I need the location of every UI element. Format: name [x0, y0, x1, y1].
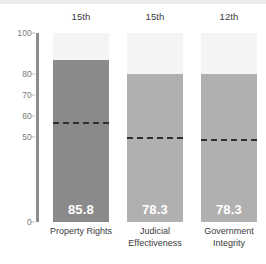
- reference-line-judicial-effectiveness: [127, 137, 183, 139]
- reference-line-government-integrity: [201, 139, 257, 141]
- bar-column-property-rights[interactable]: 85.8: [44, 33, 118, 222]
- category-label-judicial-effectiveness: Judicial Effectiveness: [118, 226, 192, 249]
- bar-judicial-effectiveness[interactable]: [127, 74, 183, 222]
- bar-value-property-rights: 85.8: [53, 202, 109, 217]
- y-axis-tick-mark-50: [30, 137, 35, 138]
- y-axis-tick-label-50: 50: [0, 132, 32, 142]
- y-axis-tick-mark-60: [30, 116, 35, 117]
- bar-group: 85.8 78.3 78.3: [44, 33, 266, 222]
- y-axis-tick-label-100: 100: [0, 28, 32, 38]
- y-axis-tick-mark-100: [30, 33, 35, 34]
- bar-value-government-integrity: 78.3: [201, 202, 257, 217]
- y-axis-tick-mark-80: [30, 74, 35, 75]
- bar-government-integrity[interactable]: [201, 74, 257, 222]
- y-axis-tick-label-70: 70: [0, 90, 32, 100]
- bar-value-judicial-effectiveness: 78.3: [127, 202, 183, 217]
- reference-line-property-rights: [53, 122, 109, 124]
- category-label-property-rights: Property Rights: [44, 226, 118, 249]
- y-axis-tick-mark-70: [30, 95, 35, 96]
- bar-column-judicial-effectiveness[interactable]: 78.3: [118, 33, 192, 222]
- y-axis-tick-mark-0: [30, 222, 35, 223]
- y-axis-spine: [36, 33, 39, 222]
- category-label-row: Property Rights Judicial Effectiveness G…: [44, 226, 266, 249]
- bar-property-rights[interactable]: [53, 60, 109, 222]
- plot-area: 100 80 70 60 50 0 85.8 78.3: [0, 0, 266, 264]
- bar-column-government-integrity[interactable]: 78.3: [192, 33, 266, 222]
- y-axis-tick-label-80: 80: [0, 69, 32, 79]
- chart-container: 15th 15th 12th 100 80 70 60 50 0 85.8: [0, 0, 266, 264]
- y-axis-tick-label-60: 60: [0, 111, 32, 121]
- y-axis-tick-label-0: 0: [0, 217, 32, 227]
- category-label-government-integrity: Government Integrity: [192, 226, 266, 249]
